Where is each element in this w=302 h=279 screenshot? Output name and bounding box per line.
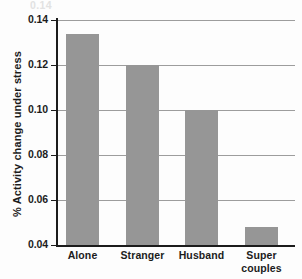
bar xyxy=(66,34,99,246)
x-axis-tick-label: Supercouples xyxy=(231,249,292,274)
bar xyxy=(245,227,278,245)
bar-chart-figure: 0.14 0.040.060.080.100.120.14 % Activity… xyxy=(0,0,302,279)
x-axis-tick-label: Alone xyxy=(52,249,113,262)
x-axis-tick-label-line: Husband xyxy=(171,249,232,262)
x-axis-tick-label-line: Alone xyxy=(52,249,113,262)
x-axis-tick-label-line: Super xyxy=(231,249,292,262)
bar xyxy=(126,65,159,245)
x-axis-tick-label-line: Stranger xyxy=(112,249,173,262)
gridline xyxy=(57,20,295,21)
y-axis-line xyxy=(56,18,58,247)
plot-area xyxy=(57,20,295,245)
x-axis-tick-label: Stranger xyxy=(112,249,173,262)
y-axis-tick-label: 0.04 xyxy=(18,238,48,250)
x-axis-tick-label-line: couples xyxy=(231,262,292,275)
y-axis-tick-label: 0.14 xyxy=(18,13,48,25)
x-axis-tick-labels: AloneStrangerHusbandSupercouples xyxy=(57,249,295,279)
y-axis-tick xyxy=(51,245,57,246)
y-axis-tick xyxy=(51,200,57,201)
y-axis-tick xyxy=(51,110,57,111)
y-axis-tick xyxy=(51,155,57,156)
y-axis-tick xyxy=(51,65,57,66)
bar xyxy=(185,110,218,245)
y-axis-title: % Activity change under stress xyxy=(11,39,23,229)
x-axis-tick-label: Husband xyxy=(171,249,232,262)
y-axis-tick xyxy=(51,20,57,21)
x-axis-line xyxy=(56,245,295,247)
